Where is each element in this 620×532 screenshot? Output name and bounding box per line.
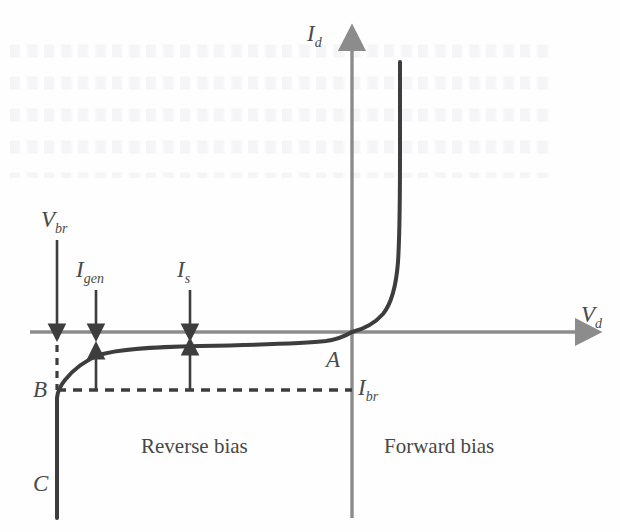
is-label: Is bbox=[177, 258, 190, 281]
y-axis-label: Id bbox=[307, 22, 322, 45]
y-axis-label-main: I bbox=[307, 21, 315, 46]
igen-label-main: I bbox=[76, 257, 84, 282]
diode-iv-characteristic-figure: Id Vd Vbr Igen Is Ibr A B C Reverse bias… bbox=[0, 0, 620, 532]
vbr-label-main: V bbox=[41, 207, 55, 232]
is-label-sub: s bbox=[185, 271, 190, 286]
x-axis-label: Vd bbox=[581, 303, 602, 326]
point-a-label: A bbox=[326, 348, 340, 371]
x-axis-label-sub: d bbox=[595, 316, 602, 331]
igen-label: Igen bbox=[76, 258, 104, 281]
point-c-label: C bbox=[33, 472, 48, 495]
reverse-bias-region-label: Reverse bias bbox=[141, 436, 248, 457]
reverse-bias-curve bbox=[57, 332, 352, 518]
y-axis-label-sub: d bbox=[315, 35, 322, 50]
igen-label-sub: gen bbox=[84, 271, 104, 286]
vbr-label-sub: br bbox=[55, 221, 67, 236]
forward-bias-region-label: Forward bias bbox=[384, 436, 494, 457]
point-b-label: B bbox=[33, 378, 47, 401]
ibr-label: Ibr bbox=[358, 376, 378, 399]
vbr-label: Vbr bbox=[41, 208, 68, 231]
x-axis-label-main: V bbox=[581, 302, 595, 327]
forward-bias-curve bbox=[352, 62, 400, 332]
is-label-main: I bbox=[177, 257, 185, 282]
ibr-label-main: I bbox=[358, 375, 366, 400]
ibr-label-sub: br bbox=[366, 389, 378, 404]
